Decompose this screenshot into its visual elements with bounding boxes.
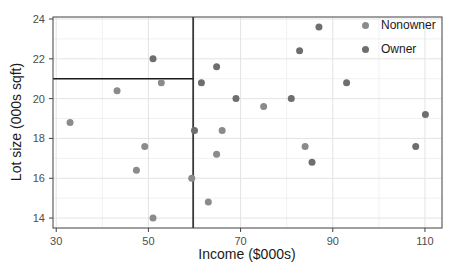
data-point-nonowner [67,119,74,126]
data-point-nonowner [150,215,157,222]
scatter-plot-figure: Lot size (000s sqft) Income ($000s) 3050… [0,0,458,273]
x-tick-label: 50 [142,235,154,247]
data-point-nonowner [158,79,165,86]
data-point-nonowner [141,143,148,150]
x-tick-label: 70 [234,235,246,247]
y-axis-title: Lot size (000s sqft) [8,63,24,181]
data-point-nonowner [302,143,309,150]
data-point-owner [343,79,350,86]
data-point-nonowner [260,103,267,110]
data-point-owner [288,95,295,102]
data-point-owner [422,111,429,118]
data-point-owner [213,63,220,70]
legend: Nonowner Owner [358,13,436,61]
legend-item-nonowner: Nonowner [358,13,436,37]
y-tick-label: 22 [33,53,45,65]
data-point-nonowner [133,167,140,174]
y-tick-label: 24 [33,13,45,25]
owner-point-icon [362,46,369,53]
data-point-owner [232,95,239,102]
x-tick-label: 110 [416,235,434,247]
data-point-owner [315,23,322,30]
y-tick-label: 14 [33,212,45,224]
y-tick-label: 20 [33,93,45,105]
legend-label-owner: Owner [381,42,416,56]
data-point-owner [296,47,303,54]
x-tick-label: 30 [50,235,62,247]
data-point-owner [309,159,316,166]
data-point-nonowner [219,127,226,134]
data-point-owner [412,143,419,150]
data-point-owner [198,79,205,86]
data-point-nonowner [188,175,195,182]
x-tick-label: 90 [327,235,339,247]
y-tick-label: 16 [33,172,45,184]
data-point-owner [191,127,198,134]
x-axis-title: Income ($000s) [198,246,295,262]
data-point-nonowner [114,87,121,94]
data-point-owner [150,55,157,62]
legend-item-owner: Owner [358,37,436,61]
legend-label-nonowner: Nonowner [381,18,436,32]
nonowner-point-icon [362,22,369,29]
data-point-nonowner [205,199,212,206]
y-tick-label: 18 [33,132,45,144]
data-point-nonowner [213,151,220,158]
